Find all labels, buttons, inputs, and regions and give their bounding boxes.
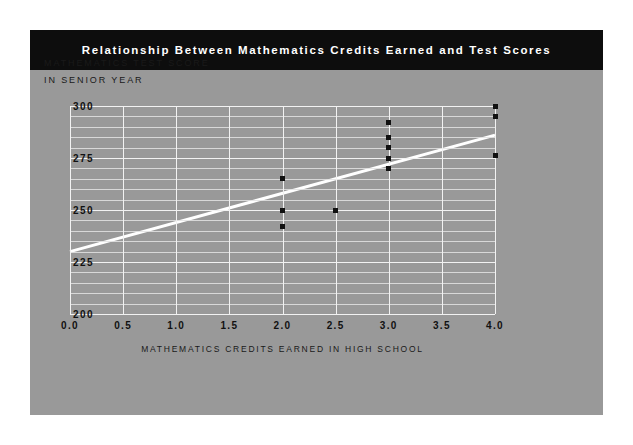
gridline-vertical bbox=[123, 106, 124, 314]
gridline-horizontal-major bbox=[70, 314, 495, 315]
x-axis-tick-label: 2.0 bbox=[274, 320, 292, 331]
data-point bbox=[386, 135, 391, 140]
data-point bbox=[386, 156, 391, 161]
x-axis-tick-label: 0.5 bbox=[114, 320, 132, 331]
plot-area bbox=[70, 106, 495, 314]
chart-screenshot: Relationship Between Mathematics Credits… bbox=[0, 0, 633, 445]
data-point bbox=[493, 104, 498, 109]
x-axis-tick-label: 1.5 bbox=[220, 320, 238, 331]
data-point bbox=[386, 166, 391, 171]
gridline-vertical bbox=[442, 106, 443, 314]
y-axis-label-line1: MATHEMATICS TEST SCORE bbox=[44, 55, 210, 72]
x-axis-ticks: 0.00.51.01.52.02.53.03.54.0 bbox=[70, 320, 495, 336]
gridline-vertical bbox=[176, 106, 177, 314]
x-axis-label: MATHEMATICS CREDITS EARNED IN HIGH SCHOO… bbox=[70, 344, 495, 354]
x-axis-tick-label: 0.0 bbox=[61, 320, 79, 331]
y-axis-ticks: 300275250225200 bbox=[40, 106, 94, 314]
data-point bbox=[386, 145, 391, 150]
x-axis-tick-label: 2.5 bbox=[327, 320, 345, 331]
y-axis-label-line2: IN SENIOR YEAR bbox=[44, 72, 210, 89]
y-axis-label: MATHEMATICS TEST SCORE IN SENIOR YEAR bbox=[44, 55, 210, 89]
gridline-vertical bbox=[229, 106, 230, 314]
data-point bbox=[280, 208, 285, 213]
data-point bbox=[280, 224, 285, 229]
data-point bbox=[386, 120, 391, 125]
gridline-vertical bbox=[495, 106, 496, 314]
x-axis-tick-label: 1.0 bbox=[167, 320, 185, 331]
y-axis-tick-label: 275 bbox=[73, 153, 94, 164]
data-point bbox=[493, 114, 498, 119]
y-axis-tick-label: 225 bbox=[73, 257, 94, 268]
y-axis-tick-label: 250 bbox=[73, 205, 94, 216]
data-point bbox=[493, 153, 498, 158]
x-axis-tick-label: 3.5 bbox=[433, 320, 451, 331]
data-point bbox=[333, 208, 338, 213]
y-axis-tick-label: 200 bbox=[73, 309, 94, 320]
x-axis-tick-label: 4.0 bbox=[486, 320, 504, 331]
y-axis-tick-label: 300 bbox=[73, 101, 94, 112]
data-point bbox=[280, 176, 285, 181]
x-axis-tick-label: 3.0 bbox=[380, 320, 398, 331]
